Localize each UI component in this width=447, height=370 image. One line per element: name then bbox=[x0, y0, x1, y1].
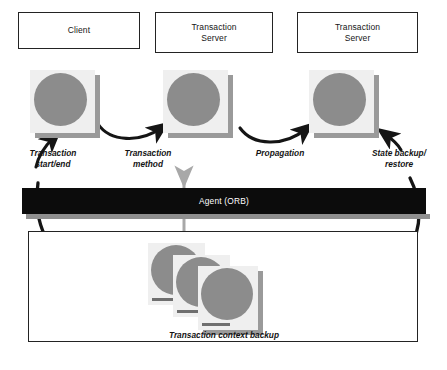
icon-bar bbox=[202, 323, 230, 326]
annotation-state-backup-restore: State backup/ restore bbox=[355, 148, 443, 170]
annotation-transaction-start-end: Transaction start/end bbox=[10, 148, 96, 170]
icon-disc bbox=[201, 268, 253, 320]
annotation-line: Transaction bbox=[10, 148, 96, 159]
curved-arrow-icon-transaction-method bbox=[98, 124, 161, 138]
curved-arrow-icon-propagation bbox=[240, 128, 306, 142]
icon-disc bbox=[313, 73, 366, 126]
agent-orb-label: Agent (ORB) bbox=[22, 188, 426, 214]
context-object-icon-server-1[interactable] bbox=[163, 70, 228, 133]
transaction-context-diagram: Client Transaction Server Transaction Se… bbox=[0, 0, 447, 370]
annotation-transaction-method: Transaction method bbox=[105, 148, 191, 170]
component-label-line: Transaction bbox=[335, 22, 380, 33]
bus-shadow bbox=[26, 214, 430, 219]
component-box-transaction-server-2[interactable]: Transaction Server bbox=[297, 12, 418, 53]
annotation-line: Propagation bbox=[237, 148, 323, 159]
annotation-line: restore bbox=[355, 159, 443, 170]
annotation-propagation: Propagation bbox=[237, 148, 323, 159]
icon-disc bbox=[167, 73, 220, 126]
component-label-line: Server bbox=[345, 33, 371, 44]
annotation-line: State backup/ bbox=[355, 148, 443, 159]
context-object-icon-server-2[interactable] bbox=[309, 70, 374, 133]
agent-orb-bus[interactable]: Agent (ORB) bbox=[22, 188, 426, 214]
context-object-icon-client[interactable] bbox=[30, 70, 95, 133]
context-object-icon-backup-3[interactable] bbox=[198, 266, 258, 330]
backup-area-label: Transaction context backup bbox=[113, 330, 335, 341]
component-box-client[interactable]: Client bbox=[18, 12, 140, 49]
annotation-line: start/end bbox=[10, 159, 96, 170]
component-label-line: Client bbox=[68, 25, 90, 36]
component-box-transaction-server-1[interactable]: Transaction Server bbox=[155, 12, 273, 53]
component-label-line: Server bbox=[201, 33, 227, 44]
annotation-line: Transaction bbox=[105, 148, 191, 159]
component-label-line: Transaction bbox=[191, 22, 236, 33]
annotation-line: method bbox=[105, 159, 191, 170]
icon-disc bbox=[34, 73, 87, 126]
backup-area-label-text: Transaction context backup bbox=[113, 330, 335, 341]
